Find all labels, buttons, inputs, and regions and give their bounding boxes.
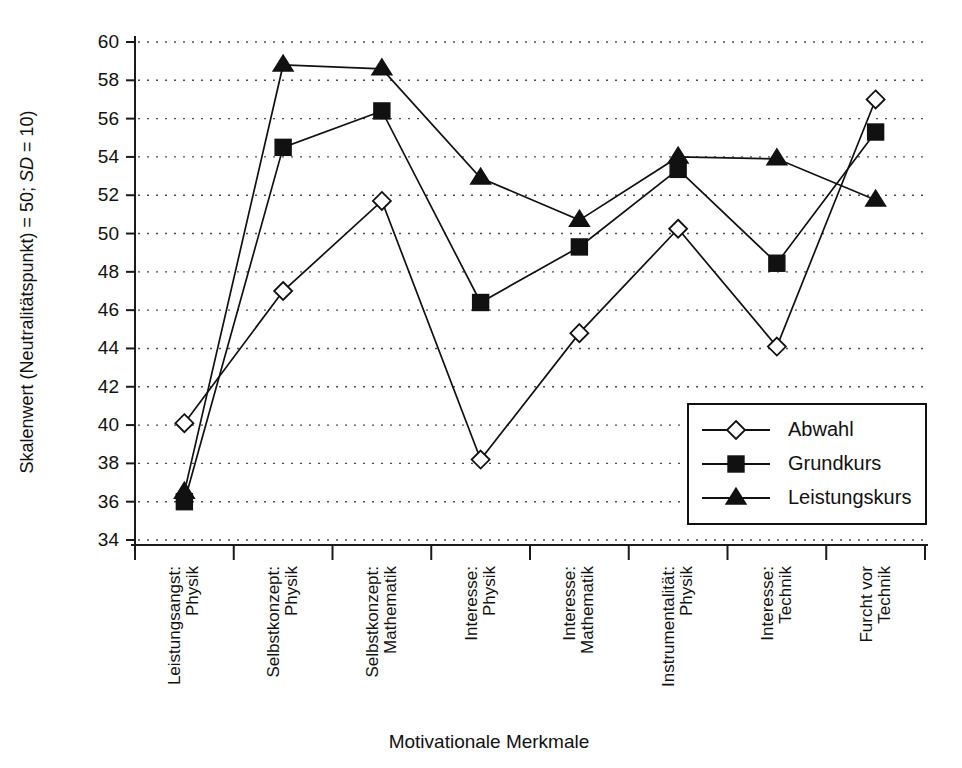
data-point-filled-square: [728, 456, 744, 472]
data-point-filled-square: [769, 255, 785, 271]
data-point-filled-triangle: [372, 59, 392, 75]
x-tick-label: Leistungsangst:Physik: [165, 566, 202, 686]
x-tick-label-line: Furcht vor: [857, 566, 876, 643]
y-tick-label: 38: [98, 452, 119, 473]
x-tick-label-line: Interesse:: [462, 566, 481, 641]
data-point-open-diamond: [867, 90, 885, 108]
data-point-filled-triangle: [273, 55, 293, 71]
legend-label: Abwahl: [788, 418, 854, 440]
x-tick-label: Selbstkonzept:Mathematik: [363, 566, 400, 678]
y-tick-label: 60: [98, 31, 119, 52]
x-tick-label-line: Technik: [875, 566, 894, 624]
y-tick-label: 46: [98, 299, 119, 320]
x-tick-label-line: Instrumentalität:: [659, 566, 678, 687]
y-tick-label: 40: [98, 414, 119, 435]
x-tick-label-line: Physik: [677, 566, 696, 617]
data-point-open-diamond: [175, 414, 193, 432]
legend-label: Leistungskurs: [788, 486, 911, 508]
data-point-filled-triangle: [668, 147, 688, 163]
y-tick-label: 48: [98, 261, 119, 282]
line-chart: 3436384042444648505254565860 Leistungsan…: [0, 0, 962, 768]
y-axis-title: Skalenwert (Neutralitätspunkt) = 50; SD …: [17, 110, 37, 473]
legend-label: Grundkurs: [788, 452, 881, 474]
y-tick-label: 56: [98, 108, 119, 129]
data-point-filled-square: [473, 294, 489, 310]
x-tick-label: Interesse:Technik: [758, 566, 795, 641]
x-tick-marks-group: [135, 545, 925, 560]
y-tick-label: 58: [98, 69, 119, 90]
y-tick-marks-group: [126, 42, 135, 540]
x-tick-label-line: Selbstkonzept:: [363, 566, 382, 678]
x-tick-label-line: Leistungsangst:: [165, 566, 184, 685]
y-tick-label: 50: [98, 223, 119, 244]
data-point-open-diamond: [472, 451, 490, 469]
x-tick-label-line: Physik: [183, 566, 202, 617]
y-tick-label: 52: [98, 184, 119, 205]
y-title-post: = 10): [17, 110, 37, 157]
y-tick-label: 36: [98, 491, 119, 512]
y-axis-title-text: Skalenwert (Neutralitätspunkt) = 50; SD …: [17, 110, 37, 473]
x-tick-label-line: Physik: [282, 566, 301, 617]
data-point-filled-triangle: [569, 210, 589, 226]
x-tick-label-line: Selbstkonzept:: [264, 566, 283, 678]
data-point-filled-square: [571, 239, 587, 255]
x-axis-title: Motivationale Merkmale: [389, 731, 590, 752]
y-tick-label: 34: [98, 529, 120, 550]
chart-container: 3436384042444648505254565860 Leistungsan…: [0, 0, 962, 768]
x-tick-label: Interesse:Mathematik: [560, 566, 597, 654]
data-point-filled-square: [374, 103, 390, 119]
y-title-sd: SD: [17, 157, 37, 182]
x-tick-label: Interesse:Physik: [462, 566, 499, 641]
legend-entry-grundkurs[interactable]: Grundkurs: [702, 452, 881, 474]
y-tick-labels-group: 3436384042444648505254565860: [98, 31, 120, 550]
x-tick-label-line: Mathematik: [381, 566, 400, 654]
x-tick-label: Instrumentalität:Physik: [659, 566, 696, 687]
x-tick-label-line: Mathematik: [578, 566, 597, 654]
x-tick-label-line: Technik: [776, 566, 795, 624]
x-tick-label-line: Interesse:: [758, 566, 777, 641]
x-tick-label: Selbstkonzept:Physik: [264, 566, 301, 678]
x-tick-label-line: Interesse:: [560, 566, 579, 641]
y-tick-label: 54: [98, 146, 120, 167]
chart-legend: AbwahlGrundkursLeistungskurs: [688, 404, 926, 524]
data-point-filled-square: [670, 161, 686, 177]
y-tick-label: 42: [98, 376, 119, 397]
data-point-filled-square: [868, 124, 884, 140]
x-tick-label: Furcht vorTechnik: [857, 566, 894, 643]
x-tick-labels-group: Leistungsangst:PhysikSelbstkonzept:Physi…: [165, 566, 893, 687]
x-tick-label-line: Physik: [480, 566, 499, 617]
data-point-filled-triangle: [174, 482, 194, 498]
data-point-filled-triangle: [866, 190, 886, 206]
y-title-pre: Skalenwert (Neutralitätspunkt) = 50;: [17, 182, 37, 474]
data-point-filled-square: [275, 139, 291, 155]
y-tick-label: 44: [98, 337, 120, 358]
